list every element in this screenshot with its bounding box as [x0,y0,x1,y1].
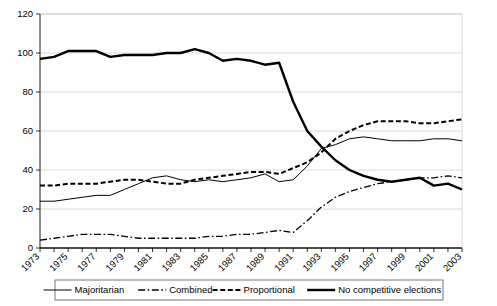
x-axis-tick-label: 1981 [131,251,154,274]
chart-legend: MajoritarianCombinedProportionalNo compe… [44,280,443,300]
x-axis-tick-label: 1975 [47,251,70,274]
x-axis-tick-label: 1997 [356,251,379,274]
x-axis-tick-label: 1985 [187,251,210,274]
y-axis: 020406080100120 [17,8,40,253]
x-axis-tick-label: 1995 [328,251,351,274]
x-axis-tick-label: 1987 [216,251,239,274]
election-systems-line-chart: 020406080100120 197319751977197919811983… [0,0,497,306]
x-axis-tick-label: 2001 [413,251,436,274]
y-axis-tick-label: 20 [22,203,33,214]
chart-container: 020406080100120 197319751977197919811983… [0,0,497,306]
x-axis-tick-label: 1989 [244,251,267,274]
x-axis-tick-label: 1977 [75,251,98,274]
x-axis-tick-label: 1983 [159,251,182,274]
x-axis-tick-label: 1979 [103,251,126,274]
x-axis-tick-label: 1999 [384,251,407,274]
series-line-combined [40,176,462,240]
legend-label-no-competitive-elections: No competitive elections [338,284,441,295]
x-axis-tick-label: 1973 [19,251,42,274]
legend-label-combined: Combined [169,284,212,295]
y-axis-tick-label: 120 [17,8,33,19]
legend-label-majoritarian: Majoritarian [75,284,125,295]
series-line-no-competitive-elections [40,49,462,189]
x-axis-tick-label: 1993 [300,251,323,274]
y-axis-tick-label: 40 [22,164,33,175]
gridlines [40,14,462,248]
series-line-majoritarian [40,137,462,201]
x-axis: 1973197519771979198119831985198719891991… [19,248,464,273]
x-axis-tick-label: 1991 [272,251,295,274]
y-axis-tick-label: 100 [17,47,33,58]
data-series [40,49,462,240]
y-axis-tick-label: 60 [22,125,33,136]
legend-label-proportional: Proportional [244,284,295,295]
series-line-proportional [40,119,462,185]
x-axis-tick-label: 2003 [441,251,464,274]
y-axis-tick-label: 80 [22,86,33,97]
